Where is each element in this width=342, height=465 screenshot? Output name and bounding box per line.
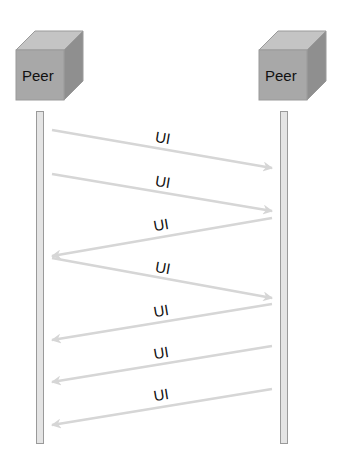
message-2-right: UI — [52, 172, 272, 211]
message-label: UI — [152, 385, 170, 404]
message-label: UI — [154, 258, 172, 277]
message-label: UI — [152, 301, 170, 320]
message-4-right: UI — [52, 258, 272, 298]
message-label: UI — [152, 215, 170, 234]
message-6-left: UI — [52, 343, 272, 382]
message-1-right: UI — [52, 128, 272, 168]
message-label: UI — [154, 172, 172, 191]
message-arrows: UIUIUIUIUIUIUI — [0, 0, 342, 465]
message-5-left: UI — [52, 301, 272, 340]
message-label: UI — [152, 343, 170, 362]
message-label: UI — [154, 128, 172, 147]
message-7-left: UI — [52, 385, 272, 425]
message-3-left: UI — [52, 215, 272, 256]
